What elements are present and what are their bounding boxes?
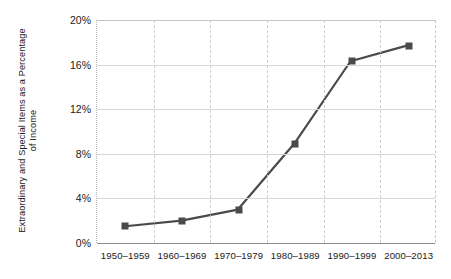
gridline-horizontal: [97, 243, 435, 244]
gridline-horizontal: [97, 65, 435, 66]
plot-area: 0%4%8%12%16%20%1950–19591960–19691970–19…: [96, 20, 436, 243]
x-axis-tick-label: 1970–1979: [214, 250, 263, 261]
data-point-marker: [235, 206, 242, 213]
gridline-vertical: [267, 20, 268, 243]
series-line: [97, 20, 435, 243]
gridline-vertical: [154, 20, 155, 243]
x-axis-tick-label: 1990–1999: [328, 250, 377, 261]
data-point-marker: [179, 217, 186, 224]
x-axis-tick-label: 2000–2013: [384, 250, 433, 261]
gridline-horizontal: [97, 20, 435, 21]
gridline-vertical: [210, 20, 211, 243]
x-axis-tick-label: 1950–1959: [101, 250, 150, 261]
gridline-horizontal: [97, 198, 435, 199]
gridline-horizontal: [97, 154, 435, 155]
y-axis-tick-label: 16%: [70, 59, 91, 71]
gridline-horizontal: [97, 109, 435, 110]
y-axis-tick-label: 0%: [76, 237, 91, 249]
y-axis-title: Extraordinary and Special Items as a Per…: [8, 9, 48, 252]
data-point-marker: [405, 42, 412, 49]
gridline-vertical: [380, 20, 381, 243]
y-axis-tick-label: 20%: [70, 14, 91, 26]
x-axis-tick-label: 1980–1989: [271, 250, 320, 261]
y-axis-tick-label: 4%: [76, 192, 91, 204]
data-point-marker: [349, 58, 356, 65]
y-axis-tick-label: 12%: [70, 103, 91, 115]
x-axis-tick-label: 1960–1969: [158, 250, 207, 261]
y-axis-tick-label: 8%: [76, 148, 91, 160]
data-point-marker: [292, 140, 299, 147]
gridline-vertical: [324, 20, 325, 243]
chart-container: Extraordinary and Special Items as a Per…: [0, 0, 451, 279]
data-point-marker: [122, 223, 129, 230]
